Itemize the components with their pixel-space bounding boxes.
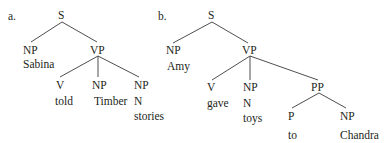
tree-b-node-n: N: [243, 97, 251, 109]
branch-a-s-np: [31, 22, 62, 42]
tree-b-node-vp: VP: [242, 44, 257, 56]
branch-b-pp-p: [292, 93, 319, 108]
tree-a-word-object1: Timber: [94, 95, 127, 107]
branch-b-vp-pp: [250, 56, 318, 80]
tree-a-word-object2: stories: [134, 110, 164, 122]
tree-b-marker: b.: [158, 10, 167, 22]
branch-b-s-vp: [212, 22, 248, 43]
tree-a-node-np-object1: NP: [92, 79, 107, 91]
tree-b-node-np-pp-object: NP: [340, 110, 355, 122]
tree-b-node-np-subject: NP: [166, 44, 181, 56]
tree-a-node-np-subject: NP: [23, 44, 38, 56]
tree-b-node-p: P: [288, 110, 294, 122]
tree-b-word-verb: gave: [207, 97, 229, 109]
tree-b-word-preposition: to: [288, 129, 297, 141]
tree-a-word-verb: told: [55, 95, 73, 107]
tree-a-node-n: N: [134, 95, 142, 107]
tree-b-node-s: S: [208, 9, 214, 21]
tree-b-word-pp-object: Chandra: [340, 129, 379, 141]
tree-a-node-vp: VP: [90, 44, 105, 56]
tree-branches: [0, 0, 391, 143]
tree-a-node-s: S: [58, 9, 64, 21]
branch-b-s-np: [173, 22, 212, 43]
tree-a-node-np-object2: NP: [134, 79, 149, 91]
tree-b-node-pp: PP: [311, 81, 324, 93]
tree-b-word-subject: Amy: [167, 60, 190, 72]
branch-b-pp-np: [319, 93, 346, 108]
tree-b-node-np-object: NP: [243, 81, 258, 93]
tree-b-node-v: V: [207, 81, 215, 93]
tree-b-word-object: toys: [243, 112, 262, 124]
branch-a-vp-v: [60, 56, 98, 77]
tree-a-node-v: V: [56, 79, 64, 91]
branch-a-vp-np2: [98, 56, 139, 77]
branch-a-s-vp: [62, 22, 97, 42]
tree-a-word-subject: Sabina: [23, 58, 54, 70]
tree-a-marker: a.: [8, 10, 16, 22]
branch-b-vp-v: [212, 56, 250, 80]
